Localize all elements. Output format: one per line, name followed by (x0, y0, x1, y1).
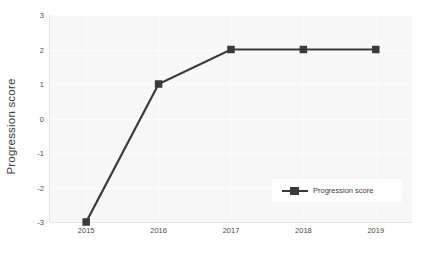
x-axis-line (50, 222, 412, 223)
data-point-marker (82, 218, 90, 226)
chart-legend: Progression score (272, 179, 402, 202)
y-axis-tick-labels: 3210-1-2-3 (8, 15, 44, 222)
x-axis-tick-label: 2016 (150, 226, 167, 235)
y-axis-tick-label: 0 (8, 114, 44, 123)
y-axis-tick-label: -1 (8, 149, 44, 158)
y-axis-tick-label: 2 (8, 45, 44, 54)
data-point-marker (372, 46, 380, 54)
chart-screenshot: Progression score 3210-1-2-3 20152016201… (0, 0, 424, 253)
data-point-marker (155, 80, 163, 88)
x-axis-tick-label: 2019 (367, 226, 384, 235)
cut-off-caption (2, 244, 242, 252)
x-axis-tick-label: 2018 (295, 226, 312, 235)
y-axis-tick-label: -2 (8, 183, 44, 192)
x-axis-tick-label: 2017 (223, 226, 240, 235)
y-axis-tick-label: 3 (8, 11, 44, 20)
x-axis-tick-label: 2015 (78, 226, 95, 235)
x-axis-tick-labels: 20152016201720182019 (50, 226, 412, 240)
data-point-marker (227, 46, 235, 54)
legend-marker-icon (282, 186, 308, 196)
y-axis-tick-label: 1 (8, 80, 44, 89)
data-point-marker (300, 46, 308, 54)
y-axis-tick-label: -3 (8, 218, 44, 227)
legend-label: Progression score (313, 186, 373, 195)
